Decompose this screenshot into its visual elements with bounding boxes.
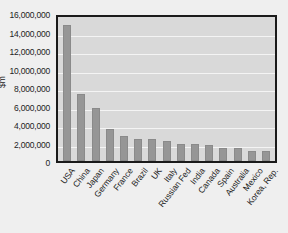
bar-slot	[259, 17, 273, 161]
bar-slot	[202, 17, 216, 161]
y-axis-tick-label: 4,000,000	[14, 121, 50, 131]
bar-slot	[174, 17, 188, 161]
bar	[177, 144, 185, 161]
y-axis-tick-label: 16,000,000	[9, 10, 50, 20]
bar-slot	[88, 17, 102, 161]
bar	[234, 148, 242, 161]
bar	[148, 139, 156, 161]
bar	[120, 136, 128, 161]
bar	[77, 94, 85, 161]
bar	[262, 151, 270, 161]
y-axis-tick-label: 0	[45, 158, 50, 168]
bar-slot	[245, 17, 259, 161]
bar-slot	[145, 17, 159, 161]
y-axis-title: $m	[0, 76, 7, 88]
bar-slot	[188, 17, 202, 161]
bar-slot	[131, 17, 145, 161]
bar-slot	[230, 17, 244, 161]
y-axis-tick-label: 12,000,000	[9, 47, 50, 57]
bar-slot	[216, 17, 230, 161]
bar	[205, 145, 213, 161]
bar	[163, 141, 171, 161]
bars-layer	[58, 17, 275, 161]
bar	[63, 25, 71, 161]
bar-slot	[60, 17, 74, 161]
y-axis-tick-label: 8,000,000	[14, 84, 50, 94]
plot-area	[56, 15, 277, 163]
x-axis-category-labels: USAChinaJapanGermanyFranceBrazilUKItalyR…	[56, 163, 277, 233]
y-axis-tick-label: 6,000,000	[14, 103, 50, 113]
bar	[219, 148, 227, 162]
bar	[92, 108, 100, 161]
bar	[248, 151, 256, 161]
bar	[191, 144, 199, 161]
bar-slot	[74, 17, 88, 161]
bar-slot	[117, 17, 131, 161]
y-axis-tick-labels: 16,000,00014,000,00012,000,00010,000,000…	[0, 15, 53, 163]
bar	[106, 129, 114, 161]
y-axis-tick-label: 14,000,000	[9, 29, 50, 39]
bar-slot	[159, 17, 173, 161]
y-axis-tick-label: 2,000,000	[14, 140, 50, 150]
bar	[134, 139, 142, 162]
bar-slot	[103, 17, 117, 161]
bar-chart: 16,000,00014,000,00012,000,00010,000,000…	[0, 0, 288, 233]
y-axis-tick-label: 10,000,000	[9, 66, 50, 76]
x-axis-category-label: UK	[149, 166, 164, 181]
